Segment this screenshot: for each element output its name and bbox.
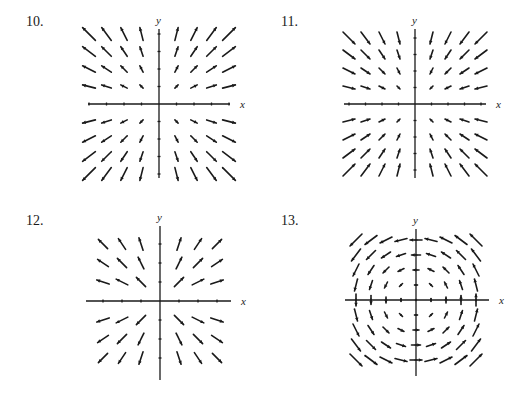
y-axis-label: y bbox=[155, 14, 161, 26]
x-axis-label: x bbox=[240, 295, 246, 307]
x-axis-label: x bbox=[498, 294, 504, 306]
vector-field-plot-12: xy bbox=[86, 211, 246, 380]
vector-field-plot-11: xy bbox=[343, 14, 501, 178]
vector-field-plots: xyxyxyxy bbox=[0, 0, 528, 398]
y-axis-label: y bbox=[411, 14, 417, 26]
x-axis-label: x bbox=[239, 98, 245, 110]
y-axis-label: y bbox=[412, 214, 418, 226]
x-axis-label: x bbox=[495, 98, 501, 110]
vector-field-plot-13: xy bbox=[345, 214, 504, 376]
y-axis-label: y bbox=[156, 211, 162, 223]
vector-field-plot-10: xy bbox=[83, 14, 245, 180]
